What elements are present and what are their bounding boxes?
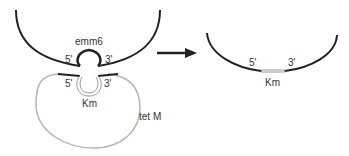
result-3prime-label: 3' [288, 57, 296, 68]
right-panel: 5' 3' Km [207, 33, 337, 88]
result-km-label: Km [265, 77, 280, 88]
plasmid-tetM-loop [36, 74, 140, 148]
recombination-diagram: emm6 5' 3' 5' 3' Km tet M 5' 3' Km [0, 0, 349, 156]
upper-3prime-label: 3' [105, 54, 113, 65]
lower-5prime-label: 5' [65, 78, 73, 89]
upper-5prime-label: 5' [65, 54, 73, 65]
tetM-label: tet M [139, 111, 161, 122]
arrow-head-icon [185, 48, 197, 58]
left-panel: emm6 5' 3' 5' 3' Km tet M [16, 10, 161, 148]
km-label-left: Km [82, 98, 97, 109]
result-5prime-label: 5' [249, 57, 257, 68]
plasmid-homology-left [58, 74, 80, 76]
emm6-label: emm6 [75, 36, 103, 47]
km-insert-loop-inner [80, 77, 98, 93]
lower-3prime-label: 3' [104, 78, 112, 89]
transition-arrow [157, 48, 197, 58]
emm6-loop [78, 50, 101, 66]
